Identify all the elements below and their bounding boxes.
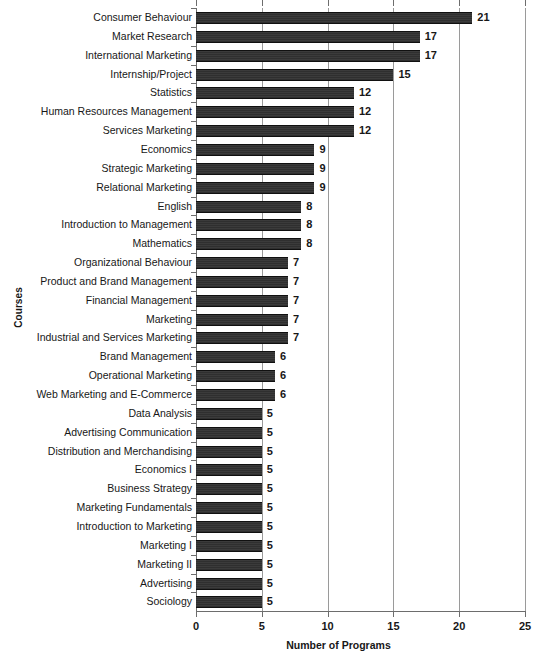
bar-value-label: 17	[425, 49, 437, 61]
category-tick	[191, 159, 196, 160]
category-tick	[191, 592, 196, 593]
category-label: Sociology	[146, 595, 192, 608]
category-tick	[191, 46, 196, 47]
category-tick	[191, 65, 196, 66]
bar-row: Statistics12	[0, 83, 542, 103]
bar-value-label: 6	[280, 388, 286, 400]
category-label: Product and Brand Management	[40, 275, 192, 288]
bar-row: Market Research17	[0, 27, 542, 47]
category-label: Market Research	[112, 30, 192, 43]
bar	[196, 12, 472, 24]
x-tick-label-25: 25	[505, 620, 542, 632]
bar-value-label: 5	[267, 577, 273, 589]
bar-row: Strategic Marketing9	[0, 159, 542, 179]
category-label: Marketing Fundamentals	[76, 501, 192, 514]
bar-value-label: 7	[293, 294, 299, 306]
bar-row: Consumer Behaviour21	[0, 8, 542, 28]
category-label: English	[158, 200, 192, 213]
bar-row: Business Strategy5	[0, 479, 542, 499]
bar	[196, 332, 288, 344]
category-tick	[191, 555, 196, 556]
bar	[196, 219, 301, 231]
category-label: International Marketing	[85, 49, 192, 62]
bar-value-label: 5	[267, 520, 273, 532]
x-tick-top-15	[393, 0, 394, 6]
bar-row: Economics I5	[0, 460, 542, 480]
category-label: Services Marketing	[103, 124, 192, 137]
category-label: Industrial and Services Marketing	[37, 331, 192, 344]
bar-row: International Marketing17	[0, 46, 542, 66]
bar	[196, 276, 288, 288]
category-tick	[191, 328, 196, 329]
bar-value-label: 9	[319, 143, 325, 155]
bar-row: Introduction to Marketing5	[0, 517, 542, 537]
x-tick-0	[196, 612, 197, 617]
category-tick	[191, 517, 196, 518]
bar	[196, 182, 314, 194]
bar-row: Services Marketing12	[0, 121, 542, 141]
bar	[196, 502, 262, 514]
x-tick-label-0: 0	[176, 620, 216, 632]
bar-row: Data Analysis5	[0, 404, 542, 424]
bar	[196, 295, 288, 307]
bar	[196, 596, 262, 608]
category-tick	[191, 347, 196, 348]
bar-row: Operational Marketing6	[0, 366, 542, 386]
category-label: Business Strategy	[107, 482, 192, 495]
bar-value-label: 7	[293, 275, 299, 287]
category-label: Strategic Marketing	[102, 162, 192, 175]
bar-value-label: 5	[267, 445, 273, 457]
x-tick-top-20	[459, 0, 460, 6]
category-tick	[191, 27, 196, 28]
bar-value-label: 5	[267, 407, 273, 419]
category-label: Data Analysis	[128, 407, 192, 420]
category-tick	[191, 310, 196, 311]
category-label: Introduction to Marketing	[76, 520, 192, 533]
x-tick-label-5: 5	[242, 620, 282, 632]
bar	[196, 314, 288, 326]
x-tick-10	[328, 612, 329, 617]
category-label: Consumer Behaviour	[93, 11, 192, 24]
bar	[196, 578, 262, 590]
bar	[196, 483, 262, 495]
category-tick	[191, 574, 196, 575]
bar-value-label: 5	[267, 558, 273, 570]
x-tick-top-10	[328, 0, 329, 6]
bar-value-label: 7	[293, 331, 299, 343]
category-label: Marketing I	[140, 539, 192, 552]
bar-value-label: 5	[267, 539, 273, 551]
bar	[196, 163, 314, 175]
bar-value-label: 12	[359, 105, 371, 117]
bar-row: Internship/Project15	[0, 65, 542, 85]
bar-value-label: 7	[293, 256, 299, 268]
bar	[196, 389, 275, 401]
bar-row: Marketing II5	[0, 555, 542, 575]
bar-value-label: 7	[293, 313, 299, 325]
bar-value-label: 12	[359, 124, 371, 136]
x-tick-label-10: 10	[308, 620, 348, 632]
bar	[196, 87, 354, 99]
bar	[196, 559, 262, 571]
bar-value-label: 5	[267, 595, 273, 607]
bar-value-label: 8	[306, 200, 312, 212]
category-tick	[191, 385, 196, 386]
bar-value-label: 8	[306, 237, 312, 249]
bar-value-label: 5	[267, 482, 273, 494]
bar-row: Advertising Communication5	[0, 423, 542, 443]
category-label: Financial Management	[86, 294, 192, 307]
bar	[196, 106, 354, 118]
x-axis-title: Number of Programs	[0, 639, 542, 651]
bar-value-label: 12	[359, 86, 371, 98]
category-tick	[191, 423, 196, 424]
category-tick	[191, 8, 196, 9]
category-label: Economics	[141, 143, 192, 156]
category-tick	[191, 197, 196, 198]
x-tick-20	[459, 612, 460, 617]
x-tick-top-25	[525, 0, 526, 6]
category-tick	[191, 102, 196, 103]
category-label: Marketing	[146, 313, 192, 326]
category-label: Economics I	[135, 463, 192, 476]
bar-row: Marketing I5	[0, 536, 542, 556]
x-tick-15	[393, 612, 394, 617]
bar-value-label: 5	[267, 501, 273, 513]
